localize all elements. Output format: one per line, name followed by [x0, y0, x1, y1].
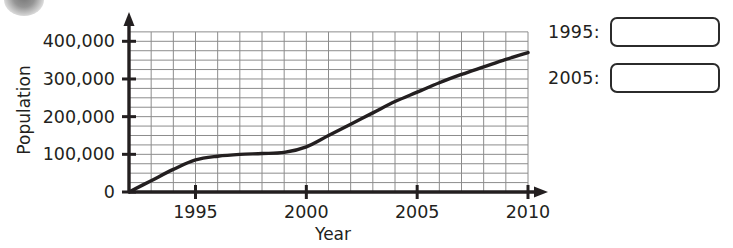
answer-input-2005[interactable]: [610, 63, 720, 93]
y-axis-title: Population: [14, 65, 34, 154]
axis-tick-marks: [122, 41, 528, 199]
y-axis: [124, 12, 135, 192]
answer-panel: 1995: 2005:: [548, 14, 733, 106]
answer-row: 2005:: [548, 60, 733, 96]
x-tick-label: 2010: [506, 202, 551, 222]
chart-canvas: 0100,000200,000300,000400,000 1995200020…: [0, 0, 560, 248]
population-line-chart: 0100,000200,000300,000400,000 1995200020…: [0, 0, 560, 248]
y-tick-label: 200,000: [43, 107, 115, 127]
chart-gridlines: [129, 32, 528, 192]
answer-row: 1995:: [548, 14, 733, 50]
answer-label-2005: 2005:: [548, 68, 610, 88]
answer-input-1995[interactable]: [610, 17, 720, 47]
x-tick-label: 2005: [395, 202, 440, 222]
y-tick-label: 400,000: [43, 31, 115, 51]
x-axis-title: Year: [314, 224, 351, 244]
x-tick-label: 1995: [173, 202, 218, 222]
y-tick-label: 300,000: [43, 69, 115, 89]
x-axis: [129, 187, 548, 198]
x-axis-tick-labels: 1995200020052010: [173, 202, 550, 222]
y-axis-tick-labels: 0100,000200,000300,000400,000: [43, 31, 115, 202]
y-tick-label: 0: [104, 182, 115, 202]
y-tick-label: 100,000: [43, 144, 115, 164]
answer-label-1995: 1995:: [548, 22, 610, 42]
x-tick-label: 2000: [284, 202, 329, 222]
